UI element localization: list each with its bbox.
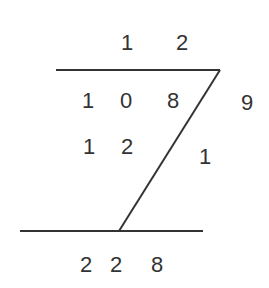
result-digit: 8 (151, 254, 163, 276)
top-digit: 2 (176, 32, 188, 54)
row1-digit: 8 (167, 90, 179, 112)
result-digit: 2 (80, 254, 92, 276)
right-digit-2: 1 (199, 146, 211, 168)
row2-digit: 2 (121, 136, 133, 158)
diagram-canvas: 1 2 1 0 8 9 1 2 1 2 2 8 (0, 0, 269, 288)
diagram-lines (0, 0, 269, 288)
row2-digit: 1 (83, 136, 95, 158)
row1-digit: 0 (120, 90, 132, 112)
right-digit-1: 9 (241, 92, 253, 114)
top-digit: 1 (121, 32, 133, 54)
row1-digit: 1 (82, 90, 94, 112)
result-digit: 2 (110, 254, 122, 276)
